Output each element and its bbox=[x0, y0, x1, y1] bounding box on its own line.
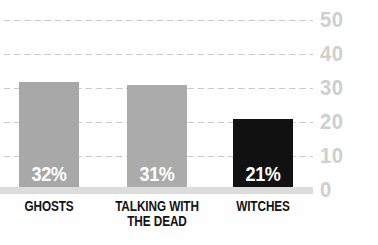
y-axis: 50 40 30 20 10 0 bbox=[320, 0, 378, 205]
bar-value-ghosts: 32% bbox=[23, 163, 75, 185]
x-axis-labels: GHOSTS TALKING WITH THE DEAD WITCHES bbox=[0, 196, 316, 242]
category-label-ghosts: GHOSTS bbox=[8, 199, 90, 214]
y-tick-50: 50 bbox=[320, 9, 360, 31]
category-label-talking-with-the-dead: TALKING WITH THE DEAD bbox=[115, 199, 199, 228]
bar-ghosts[interactable]: 32% bbox=[19, 82, 79, 189]
bar-value-witches: 21% bbox=[237, 163, 289, 185]
bar-chart: 32% 31% 21% 50 40 30 20 10 0 GHOSTS TALK… bbox=[0, 0, 378, 245]
plot-area: 32% 31% 21% bbox=[0, 0, 316, 192]
axis-baseline bbox=[0, 187, 313, 194]
category-label-witches: WITCHES bbox=[221, 199, 305, 214]
y-tick-20: 20 bbox=[320, 111, 360, 133]
bar-witches[interactable]: 21% bbox=[233, 119, 293, 189]
gridline-50 bbox=[0, 19, 313, 22]
bar-talking-with-the-dead[interactable]: 31% bbox=[127, 85, 187, 189]
y-tick-10: 10 bbox=[320, 145, 360, 167]
y-tick-0: 0 bbox=[320, 179, 360, 201]
y-tick-40: 40 bbox=[320, 43, 360, 65]
gridline-40 bbox=[0, 53, 313, 56]
y-tick-30: 30 bbox=[320, 77, 360, 99]
bar-value-talking-with-the-dead: 31% bbox=[131, 163, 183, 185]
